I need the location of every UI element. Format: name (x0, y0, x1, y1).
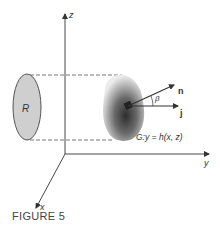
z-axis-label: z (68, 10, 74, 20)
figure-caption: FIGURE 5 (12, 210, 65, 222)
angle-beta-label: β (154, 94, 160, 103)
x-axis (36, 154, 65, 208)
angle-beta-arc (151, 96, 153, 106)
unit-vector-label: j (179, 108, 183, 118)
region-r-label: R (22, 103, 29, 114)
y-axis-label: y (203, 158, 209, 168)
surface-g-blob (103, 74, 144, 140)
surface-equation-label: G:y = h(x, z) (136, 132, 183, 142)
normal-vector-label: n (178, 86, 184, 96)
surface-projection-diagram: R z y x n j β G:y = h(x, z) (0, 0, 220, 230)
